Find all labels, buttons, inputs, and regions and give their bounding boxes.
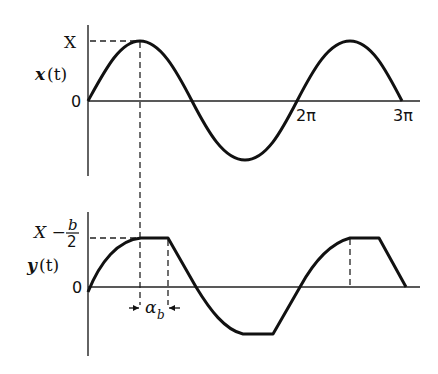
top-plot: X x (t) 0 2π 3π [34,25,420,305]
level-label-frac-den: 2 [67,233,77,251]
alpha-label: α [145,297,157,317]
bottom-y-label-arg: (t) [39,255,59,275]
level-label-x-minus: X − [32,222,66,242]
clipped-curve-y [88,238,406,334]
backlash-waveform-diagram: X x (t) 0 2π 3π α b X − b 2 y (t) 0 [0,0,438,374]
alpha-b-dimension: α b [129,297,180,322]
bottom-zero-label: 0 [72,278,82,297]
right-arrow-icon [169,305,175,311]
tick-label-3pi: 3π [393,106,413,125]
top-zero-label: 0 [71,92,81,111]
top-y-label-var: x [34,64,46,84]
tick-label-2pi: 2π [296,106,316,125]
top-y-label-arg: (t) [47,64,67,84]
alpha-subscript: b [157,308,165,322]
bottom-y-label-var: y [26,255,38,275]
bottom-plot: α b X − b 2 y (t) 0 [26,212,420,356]
left-arrow-icon [133,305,139,311]
top-peak-label: X [64,32,77,52]
level-label-frac-num: b [68,216,78,234]
